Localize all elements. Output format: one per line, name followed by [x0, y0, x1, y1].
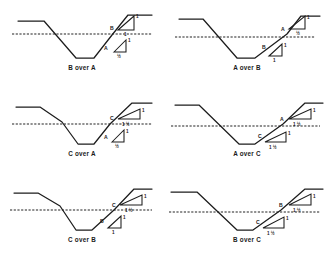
panel-c-over-b: C 1 1 ½ B 1 1 C over B — [0, 172, 164, 256]
panel-caption: C over A — [0, 150, 164, 157]
lower-triangle-label: C — [258, 133, 262, 139]
lower-slope-marker: C 1 1 ½ — [256, 216, 289, 236]
profile-line — [175, 103, 323, 144]
upper-slope-marker: C 1 1 ½ — [112, 194, 147, 213]
panel-b-over-c: B 1 1 ½ C 1 1 ½ B over C — [165, 172, 329, 256]
upper-triangle-label: B — [279, 202, 283, 208]
lower-triangle-label: C — [256, 219, 260, 225]
upper-triangle-icon — [289, 109, 311, 119]
lower-triangle-rise: 1 — [284, 43, 287, 48]
upper-triangle-rise: 1 — [136, 14, 139, 19]
panel-c-over-a-graphic: C 1 1 ½ A 1 ½ — [0, 86, 164, 171]
lower-slope-marker: A 1 ½ — [104, 129, 129, 149]
lower-triangle-icon — [114, 40, 126, 52]
panel-a-over-b: A 1 ½ B 1 1 A over B — [165, 0, 329, 85]
panel-a-over-c-graphic: A 1 1 ½ C 1 1 ½ — [165, 86, 329, 171]
upper-triangle-label: C — [112, 202, 116, 208]
upper-triangle-rise: 1 — [313, 108, 316, 113]
upper-slope-marker: A 1 1 ½ — [280, 108, 316, 127]
upper-triangle-label: B — [110, 25, 114, 31]
lower-triangle-icon — [108, 216, 121, 228]
upper-triangle-label: A — [281, 26, 285, 32]
lower-slope-marker: B 1 1 — [262, 43, 287, 63]
upper-triangle-run: 1 ½ — [293, 207, 301, 213]
upper-triangle-label: A — [280, 116, 284, 122]
lower-triangle-rise: 1 — [288, 131, 291, 136]
lower-triangle-run: ½ — [115, 143, 119, 149]
upper-triangle-rise: 1 — [142, 108, 145, 113]
lower-triangle-label: A — [104, 45, 108, 51]
lower-triangle-icon — [265, 132, 286, 142]
lower-triangle-label: A — [104, 134, 108, 140]
upper-triangle-run: 1 — [124, 32, 127, 37]
upper-triangle-run: 1 ½ — [125, 207, 133, 213]
lower-triangle-rise: 1 — [286, 216, 289, 221]
upper-triangle-rise: 1 — [144, 194, 147, 199]
lower-slope-marker: B 1 1 — [100, 215, 126, 235]
lower-slope-marker: A 1 ½ — [104, 38, 131, 59]
lower-triangle-rise: 1 — [123, 215, 126, 220]
panel-a-over-c: A 1 1 ½ C 1 1 ½ A over C — [165, 86, 329, 171]
profile-line — [18, 15, 152, 58]
lower-triangle-label: B — [100, 218, 104, 224]
panel-caption: B over C — [165, 236, 329, 243]
lower-triangle-icon — [263, 217, 284, 228]
panel-caption: A over C — [165, 150, 329, 157]
panel-caption: A over B — [165, 64, 329, 71]
upper-slope-marker: B 1 1 ½ — [279, 194, 316, 213]
lower-triangle-run: 1 — [273, 58, 276, 63]
upper-triangle-run: 1 ½ — [293, 121, 301, 127]
panel-b-over-a-graphic: B 1 1 A 1 ½ — [0, 0, 164, 85]
slope-comparison-figure: B 1 1 A 1 ½ B over A A 1 ½ — [0, 0, 329, 256]
upper-slope-marker: A 1 ½ — [281, 15, 310, 36]
lower-triangle-rise: 1 — [128, 38, 131, 43]
upper-triangle-run: 1 ½ — [122, 121, 130, 127]
panel-c-over-b-graphic: C 1 1 ½ B 1 1 — [0, 172, 164, 256]
upper-triangle-icon — [289, 16, 305, 29]
lower-triangle-icon — [112, 130, 124, 142]
lower-slope-marker: C 1 1 ½ — [258, 131, 291, 150]
upper-triangle-label: C — [110, 115, 114, 121]
upper-triangle-rise: 1 — [307, 15, 310, 20]
panel-b-over-a: B 1 1 A 1 ½ B over A — [0, 0, 164, 85]
upper-triangle-run: ½ — [296, 30, 300, 36]
upper-triangle-rise: 1 — [313, 194, 316, 199]
lower-triangle-run: 1 — [112, 230, 115, 235]
panel-caption: C over B — [0, 236, 164, 243]
lower-triangle-run: ½ — [117, 53, 121, 59]
lower-triangle-rise: 1 — [126, 129, 129, 134]
panel-caption: B over A — [0, 64, 164, 71]
lower-triangle-label: B — [262, 44, 266, 50]
panel-b-over-c-graphic: B 1 1 ½ C 1 1 ½ — [165, 172, 329, 256]
panel-a-over-b-graphic: A 1 ½ B 1 1 — [165, 0, 329, 85]
panel-c-over-a: C 1 1 ½ A 1 ½ C over A — [0, 86, 164, 171]
